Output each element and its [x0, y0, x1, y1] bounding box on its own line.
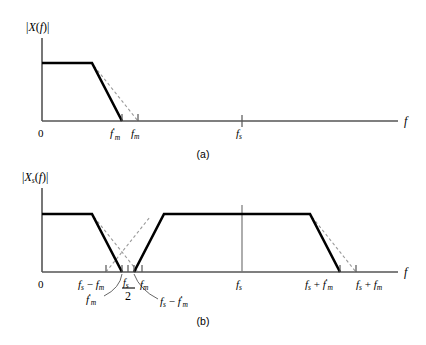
panel-a: |X(f)| 0 f'm fm fs f (a) [26, 20, 409, 160]
panel-a-y-axis-label: |X(f)| [26, 20, 50, 34]
panel-b-annotation-fs-minus-fprime-m: fs − f'm [160, 294, 188, 309]
panel-b-ticklabel-fs: fs [236, 278, 242, 292]
panel-b-origin-label: 0 [38, 278, 44, 290]
panel-b-annotation-fprime-m: f'm [86, 292, 97, 307]
panel-a-dashed-rolloff [94, 66, 138, 121]
panel-a-x-axis-label: f [404, 114, 409, 128]
panel-a-ticklabel-fs: fs [236, 127, 242, 141]
panel-a-ticklabel-fprime-m: f'm [110, 126, 121, 142]
panel-b-y-axis-label: |Xs(f)| [22, 170, 48, 185]
panel-b-dashed-baseband [94, 217, 138, 272]
panel-a-ticklabel-fm: fm [131, 127, 140, 141]
panel-b: |Xs(f)| 0 fs − fm fs 2 fm fs [22, 170, 409, 327]
panel-b-x-axis-label: f [404, 265, 409, 279]
sampling-spectrum-figure: |X(f)| 0 f'm fm fs f (a) [0, 0, 426, 345]
figure-svg: |X(f)| 0 f'm fm fs f (a) [0, 0, 426, 345]
panel-a-caption: (a) [197, 148, 210, 160]
panel-b-dashed-image [106, 217, 150, 272]
panel-b-dashed-right [312, 217, 356, 272]
panel-a-spectrum-curve [42, 63, 122, 121]
panel-b-image-curve [134, 214, 340, 272]
panel-b-ticklabel-fs-plus-fprime-m: fs + f'm [305, 277, 333, 292]
panel-b-ticklabel-fm: fm [140, 278, 149, 292]
panel-b-baseband-curve [42, 214, 122, 272]
panel-a-origin-label: 0 [38, 127, 44, 139]
panel-b-leader-fprime-m [104, 274, 122, 296]
panel-b-ticklabel-fs-minus-fm: fs − fm [78, 278, 105, 292]
panel-b-ticklabel-fs-half-denominator: 2 [125, 289, 131, 303]
panel-b-ticklabel-fs-plus-fm: fs + fm [356, 278, 383, 292]
panel-b-caption: (b) [197, 315, 210, 327]
